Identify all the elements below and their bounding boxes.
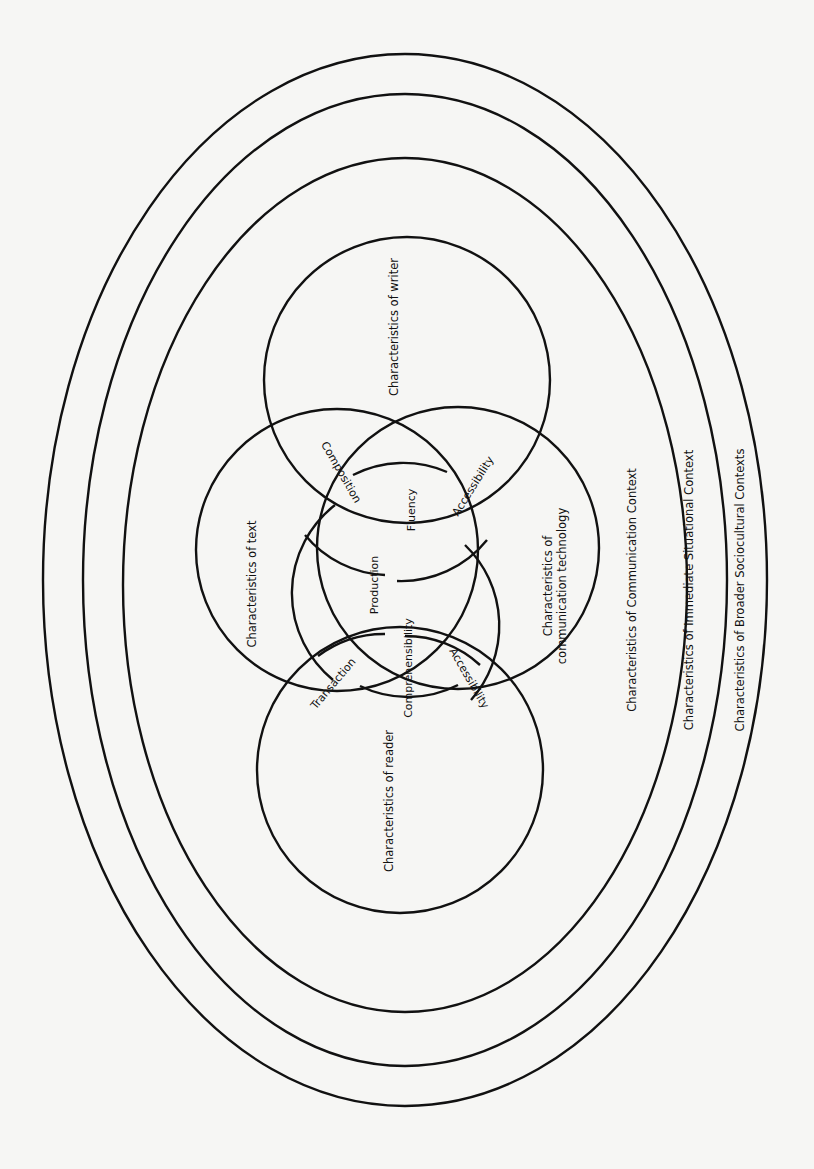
technology-label-line2: communication technology (555, 508, 569, 665)
production-label: Production (368, 556, 381, 615)
technology-label-line1: Characteristics of (541, 535, 555, 637)
text-label: Characteristics of text (245, 520, 259, 648)
writer-label: Characteristics of writer (387, 258, 401, 396)
comprehensibility-label: Comprehensibility (402, 618, 415, 718)
immediate-situational-context-label: Characteristics of Immediate Situational… (682, 449, 696, 730)
nested-context-diagram: Characteristics of Communication Context… (0, 0, 814, 1169)
reader-label: Characteristics of reader (382, 730, 396, 872)
fluency-label: Fluency (405, 488, 418, 531)
communication-context-label: Characteristics of Communication Context (625, 468, 639, 712)
broader-sociocultural-context-label: Characteristics of Broader Sociocultural… (733, 449, 747, 732)
